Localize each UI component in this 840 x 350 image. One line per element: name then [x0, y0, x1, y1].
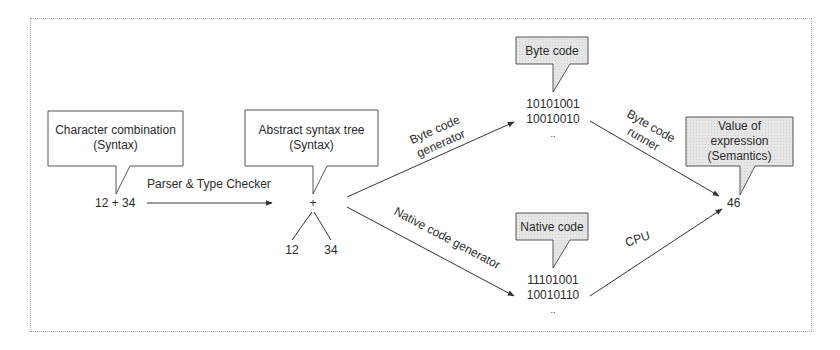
result-callout-text: Value of expression (Semantics)	[686, 119, 793, 164]
ast-left-child: 12	[280, 243, 304, 258]
ast-root: +	[303, 196, 323, 211]
source-callout-line1: Character combination	[48, 123, 183, 138]
bytecode-callout-text: Byte code	[516, 44, 588, 59]
source-callout-line2: (Syntax)	[48, 138, 183, 153]
ast-branch-right	[314, 212, 331, 240]
nativecode-line1: 11101001	[517, 273, 589, 288]
ast-callout-text: Abstract syntax tree (Syntax)	[245, 123, 378, 153]
result-callout-line2: expression	[686, 134, 793, 149]
ast-callout-line2: (Syntax)	[245, 138, 378, 153]
parser-label: Parser & Type Checker	[147, 177, 271, 192]
ast-branch-left	[292, 212, 312, 240]
result-callout-line1: Value of	[686, 119, 793, 134]
ast-right-child: 34	[319, 243, 343, 258]
bytecode-line1: 10101001	[517, 97, 589, 112]
result-callout-line3: (Semantics)	[686, 149, 793, 164]
cpu-arrow	[590, 209, 722, 296]
bytecode-ellipsis: ..	[517, 127, 589, 142]
nativecode-block: 11101001 10010110 ..	[517, 273, 589, 318]
result-value: 46	[727, 196, 740, 211]
source-expression: 12 + 34	[95, 196, 135, 211]
diagram-graphics	[0, 0, 840, 350]
bytecode-block: 10101001 10010010 ..	[517, 97, 589, 142]
nativecode-ellipsis: ..	[517, 303, 589, 318]
nativecode-line2: 10010110	[517, 288, 589, 303]
nativecode-callout-text: Native code	[516, 220, 588, 235]
bytecode-line2: 10010010	[517, 112, 589, 127]
ast-callout-line1: Abstract syntax tree	[245, 123, 378, 138]
source-callout-text: Character combination (Syntax)	[48, 123, 183, 153]
